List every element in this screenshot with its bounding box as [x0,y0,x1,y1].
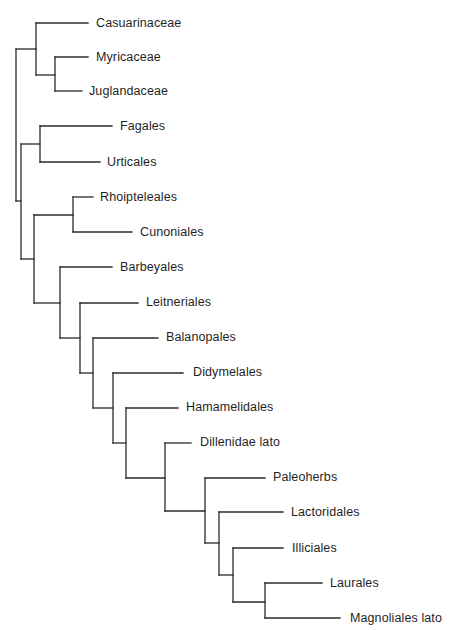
taxon-label-lactoridales: Lactoridales [291,505,360,519]
taxon-label-juglandaceae: Juglandaceae [89,84,168,98]
taxon-label-urticales: Urticales [107,155,157,169]
cladogram-tree [0,0,456,630]
taxon-label-myricaceae: Myricaceae [96,50,161,64]
taxon-label-fagales: Fagales [120,119,165,133]
taxon-label-rhoipteleales: Rhoipteleales [100,190,177,204]
taxon-label-balanopales: Balanopales [166,330,236,344]
taxon-label-casuarinaceae: Casuarinaceae [96,16,181,30]
taxon-label-didymelales: Didymelales [193,365,262,379]
taxon-label-paleoherbs: Paleoherbs [273,470,337,484]
taxon-label-dillenidae-lato: Dillenidae lato [200,435,280,449]
taxon-label-magnoliales-lato: Magnoliales lato [350,611,442,625]
taxon-label-leitneriales: Leitneriales [146,295,211,309]
taxon-label-hamamelidales: Hamamelidales [186,400,273,414]
taxon-label-laurales: Laurales [330,576,379,590]
taxon-label-illiciales: Illiciales [292,541,337,555]
taxon-label-barbeyales: Barbeyales [120,260,184,274]
taxon-label-cunoniales: Cunoniales [140,225,204,239]
